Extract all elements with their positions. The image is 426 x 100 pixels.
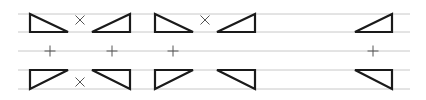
triangle-t5-top xyxy=(355,14,392,32)
plus-icon xyxy=(107,46,118,57)
triangle-t3-bottom xyxy=(155,70,193,89)
guide-lines xyxy=(18,14,410,89)
triangle-t1-top xyxy=(30,14,68,32)
plus-icon xyxy=(45,46,56,57)
cross-icon xyxy=(201,16,210,25)
triangle-t3-top xyxy=(155,14,193,32)
triangle-t4-top xyxy=(217,14,255,32)
triangle-diagram xyxy=(0,0,426,100)
cross-icon xyxy=(76,78,85,87)
triangle-t2-top xyxy=(92,14,130,32)
triangle-t5-bottom xyxy=(355,70,392,89)
plus-icon xyxy=(368,46,379,57)
triangle-t1-bottom xyxy=(30,70,68,89)
diagram-svg xyxy=(0,0,426,100)
triangle-t2-bottom xyxy=(92,70,130,89)
triangle-t4-bottom xyxy=(217,70,255,89)
cross-icon xyxy=(76,16,85,25)
plus-icon xyxy=(168,46,179,57)
